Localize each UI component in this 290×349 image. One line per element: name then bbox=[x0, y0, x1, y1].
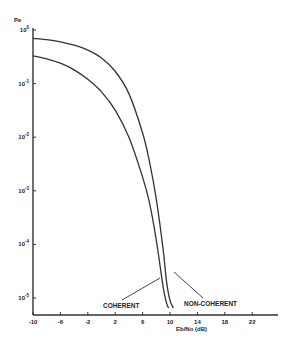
curve-coherent bbox=[33, 56, 169, 308]
annotation-noncoherent: NON-COHERENT bbox=[174, 272, 237, 307]
x-tick-label: 18 bbox=[221, 319, 228, 325]
x-tick-label: 2 bbox=[114, 319, 118, 325]
y-tick-label: 10-1 bbox=[18, 79, 29, 87]
x-tick-label: -6 bbox=[58, 319, 64, 325]
axes bbox=[33, 28, 278, 315]
x-tick-label: 22 bbox=[249, 319, 256, 325]
annotation-coherent-label: COHERENT bbox=[103, 302, 140, 309]
x-tick-label: 14 bbox=[194, 319, 201, 325]
x-tick-label: 6 bbox=[141, 319, 145, 325]
y-tick-label: 10-4 bbox=[18, 239, 29, 247]
leader-line-coherent bbox=[122, 278, 160, 300]
y-tick-label: 100 bbox=[20, 25, 30, 33]
y-axis-label: Pe bbox=[14, 17, 22, 23]
chart: -10-6-22610141822 10010-110-210-310-410-… bbox=[0, 0, 290, 349]
y-tick-label: 10-5 bbox=[18, 293, 29, 301]
curve-non-coherent bbox=[33, 38, 173, 308]
x-axis-label: Eb/No (dB) bbox=[176, 326, 207, 332]
curves bbox=[33, 38, 173, 308]
x-tick-label: -2 bbox=[85, 319, 91, 325]
y-tick-label: 10-3 bbox=[18, 186, 29, 194]
x-tick-label: 10 bbox=[167, 319, 174, 325]
x-tick-label: -10 bbox=[29, 319, 38, 325]
x-ticks: -10-6-22610141822 bbox=[29, 312, 257, 325]
annotation-coherent: COHERENT bbox=[103, 278, 160, 309]
annotation-noncoherent-label: NON-COHERENT bbox=[184, 300, 237, 307]
y-tick-label: 10-2 bbox=[18, 132, 29, 140]
leader-line-noncoherent bbox=[174, 272, 203, 298]
